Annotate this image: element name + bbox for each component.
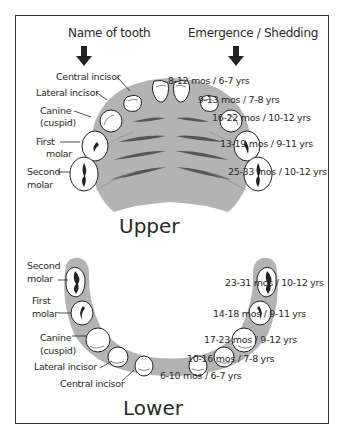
upper-name-first-molar: First [36, 136, 55, 147]
upper-timing-canine: 16-22 mos / 10-12 yrs [212, 112, 311, 123]
upper-title: Upper [119, 214, 180, 238]
lower-timing-second-molar: 23-31 mos / 10-12 yrs [225, 277, 324, 288]
upper-name-central-incisor: Central incisor [56, 71, 120, 82]
lower-timing-central-incisor: 6-10 mos / 6-7 yrs [160, 370, 241, 381]
upper-name-canine-sub: (cuspid) [40, 117, 76, 128]
lower-name-first-molar-sub: molar [32, 308, 58, 319]
lower-canine-left [86, 328, 110, 352]
upper-canine-left [100, 110, 122, 132]
down-arrow-icon [76, 46, 92, 66]
lower-timing-first-molar: 14-18 mos / 9-11 yrs [213, 308, 306, 319]
upper-timing-first-molar: 13-19 mos / 9-11 yrs [220, 138, 313, 149]
lower-name-canine: Canine [40, 332, 71, 343]
upper-name-second-molar: Second [27, 166, 60, 177]
lower-name-first-molar: First [32, 295, 51, 306]
upper-lateral-incisor-left [124, 95, 142, 111]
lower-name-central-incisor: Central incisor [60, 378, 124, 389]
lower-name-canine-sub: (cuspid) [40, 345, 76, 356]
lower-lateral-incisor-left [108, 347, 128, 367]
down-arrow-icon [228, 46, 244, 66]
lower-name-second-molar-sub: molar [27, 273, 53, 284]
upper-name-second-molar-sub: molar [27, 179, 53, 190]
lower-title: Lower [123, 396, 183, 420]
upper-name-first-molar-sub: molar [46, 148, 72, 159]
upper-timing-second-molar: 25-33 mos / 10-12 yrs [228, 166, 327, 177]
upper-timing-central-incisor: 8-12 mos / 6-7 yrs [168, 75, 249, 86]
upper-name-canine: Canine [40, 105, 71, 116]
lower-timing-lateral-incisor: 10-16 mos / 7-8 yrs [187, 353, 274, 364]
lower-central-incisor-left [135, 356, 153, 376]
lower-name-second-molar: Second [27, 260, 60, 271]
upper-timing-lateral-incisor: 9-13 mos / 7-8 yrs [198, 94, 279, 105]
upper-name-lateral-incisor: Lateral incisor [36, 87, 99, 98]
lower-name-lateral-incisor: Lateral incisor [34, 361, 97, 372]
lower-timing-canine: 17-23 mos / 9-12 yrs [204, 334, 297, 345]
